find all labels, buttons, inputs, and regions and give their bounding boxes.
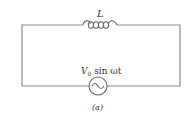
inductor-label: L (96, 8, 104, 19)
source-label: V0 sin ωt (81, 66, 122, 77)
right-wire (107, 25, 180, 86)
left-wire (22, 25, 89, 86)
circuit-wires (22, 25, 180, 86)
caption: (a) (92, 103, 103, 112)
circuit-diagram: L V0 sin ωt (a) (0, 0, 188, 118)
inductor-icon (83, 21, 117, 29)
